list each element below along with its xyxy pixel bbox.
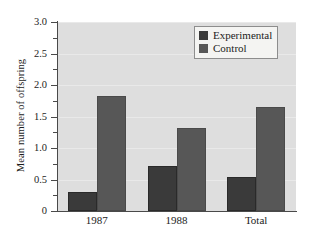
x-axis-tick-label: 1988 — [132, 215, 222, 226]
legend-item-control: Control — [199, 42, 272, 55]
y-axis-minor-tick — [53, 164, 57, 165]
legend-swatch-icon — [199, 31, 208, 40]
bar-experimental — [148, 166, 177, 211]
y-axis-tick-label: 3.0 — [7, 17, 47, 28]
gridline — [57, 85, 296, 86]
x-axis-line — [57, 211, 297, 212]
y-axis-tick-label: 2.5 — [7, 49, 47, 60]
y-axis-minor-tick — [53, 101, 57, 102]
x-axis-tick-label: Total — [211, 215, 301, 226]
y-axis-tick — [51, 85, 57, 86]
gridline — [57, 22, 296, 23]
bar-chart: Mean number of offspring 00.51.01.52.02.… — [0, 0, 319, 245]
y-axis-line — [57, 21, 58, 212]
y-axis-tick-label: 0.5 — [7, 175, 47, 186]
legend-swatch-icon — [199, 44, 208, 53]
y-axis-tick-label: 1.0 — [7, 143, 47, 154]
y-axis-tick — [51, 148, 57, 149]
y-axis-minor-tick — [53, 132, 57, 133]
y-axis-tick — [51, 22, 57, 23]
bar-experimental — [227, 177, 256, 211]
y-axis-tick — [51, 117, 57, 118]
y-axis-minor-tick — [53, 38, 57, 39]
y-axis-tick-label: 0 — [7, 206, 47, 217]
y-axis-tick — [51, 54, 57, 55]
bar-control — [256, 107, 285, 211]
legend-item-experimental: Experimental — [199, 29, 272, 42]
legend-label: Control — [213, 43, 247, 54]
x-axis-tick-label: 1987 — [52, 215, 142, 226]
bar-control — [97, 96, 126, 211]
bar-control — [177, 128, 206, 211]
y-axis-minor-tick — [53, 69, 57, 70]
legend-label: Experimental — [213, 30, 272, 41]
y-axis-tick — [51, 211, 57, 212]
y-axis-minor-tick — [53, 195, 57, 196]
legend: Experimental Control — [194, 26, 278, 59]
bar-experimental — [68, 192, 97, 211]
y-axis-tick — [51, 180, 57, 181]
y-axis-tick-label: 2.0 — [7, 80, 47, 91]
y-axis-tick-label: 1.5 — [7, 112, 47, 123]
